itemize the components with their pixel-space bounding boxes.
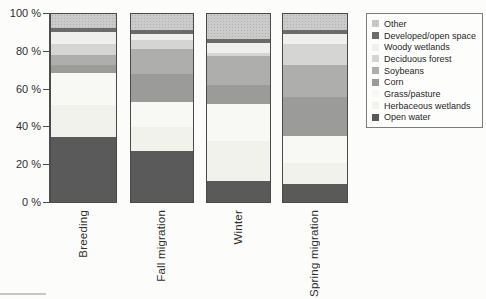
- legend-item: Herbaceous wetlands: [372, 100, 482, 112]
- x-axis-label: Winter: [231, 210, 245, 244]
- legend-item: Corn: [372, 76, 482, 88]
- y-tick: [43, 13, 49, 14]
- legend-item: Deciduous forest: [372, 53, 482, 65]
- bar-segment: [51, 44, 116, 55]
- y-tick: [43, 51, 49, 52]
- bar-segment: [51, 65, 116, 73]
- bar-segment: [131, 14, 193, 30]
- bar-segment: [283, 97, 347, 136]
- y-tick: [43, 164, 49, 165]
- bar-segment: [51, 14, 116, 28]
- bar-segment: [131, 102, 193, 126]
- y-tick-label: 0 %: [0, 196, 41, 208]
- bar-segment: [283, 136, 347, 163]
- bar: [130, 13, 194, 203]
- legend-item: Developed/open space: [372, 30, 482, 42]
- legend-swatch: [372, 20, 379, 27]
- legend-item: Grass/pasture: [372, 88, 482, 100]
- bar-segment: [207, 14, 270, 39]
- bar-segment: [283, 65, 347, 97]
- bar-segment: [51, 137, 116, 202]
- bar-segment: [283, 34, 347, 44]
- bar-segment: [131, 49, 193, 74]
- legend-label: Herbaceous wetlands: [384, 101, 471, 111]
- bar-segment: [51, 105, 116, 137]
- bar-segment: [51, 55, 116, 64]
- legend-item: Open water: [372, 112, 482, 124]
- legend-swatch: [372, 32, 379, 39]
- bar-segment: [207, 181, 270, 202]
- y-tick-label: 20 %: [0, 158, 41, 170]
- bar-segment: [51, 73, 116, 105]
- bar: [206, 13, 271, 203]
- y-tick: [43, 202, 49, 203]
- legend-label: Soybeans: [384, 66, 424, 76]
- legend-label: Open water: [384, 112, 431, 122]
- y-tick: [43, 126, 49, 127]
- x-axis-label: Spring migration: [307, 210, 321, 297]
- bar-segment: [207, 141, 270, 181]
- legend-item: Soybeans: [372, 65, 482, 77]
- bar-segment: [131, 40, 193, 48]
- y-tick: [43, 89, 49, 90]
- legend: OtherDeveloped/open spaceWoody wetlandsD…: [366, 13, 483, 128]
- legend-label: Grass/pasture: [384, 89, 441, 99]
- legend-swatch: [372, 102, 379, 109]
- legend-swatch: [372, 90, 379, 97]
- bar-segment: [283, 184, 347, 202]
- legend-label: Deciduous forest: [384, 54, 452, 64]
- bar-segment: [207, 43, 270, 52]
- bar-segment: [131, 74, 193, 102]
- legend-item: Woody wetlands: [372, 41, 482, 53]
- legend-swatch: [372, 55, 379, 62]
- bar-segment: [131, 151, 193, 202]
- bar: [282, 13, 348, 203]
- legend-swatch: [372, 79, 379, 86]
- legend-label: Developed/open space: [384, 31, 476, 41]
- figure: 100 %80 %60 %40 %20 %0 % BreedingFall mi…: [0, 0, 486, 299]
- bar-segment: [283, 44, 347, 65]
- y-tick-label: 60 %: [0, 83, 41, 95]
- legend-list: OtherDeveloped/open spaceWoody wetlandsD…: [372, 18, 482, 123]
- legend-label: Other: [384, 19, 407, 29]
- x-axis-label: Fall migration: [154, 210, 168, 282]
- bar-segment: [283, 163, 347, 184]
- legend-item: Other: [372, 18, 482, 30]
- bar-segment: [283, 14, 347, 30]
- bar-segment: [51, 32, 116, 44]
- bar-segment: [207, 104, 270, 141]
- legend-label: Woody wetlands: [384, 42, 450, 52]
- legend-swatch: [372, 44, 379, 51]
- y-tick-label: 100 %: [0, 7, 41, 19]
- legend-label: Corn: [384, 77, 404, 87]
- y-tick-label: 40 %: [0, 120, 41, 132]
- bar-segment: [131, 127, 193, 151]
- bar-segment: [207, 85, 270, 105]
- bar: [50, 13, 117, 203]
- scan-artifact-line: [0, 293, 46, 295]
- bar-segment: [131, 34, 193, 41]
- y-tick-label: 80 %: [0, 45, 41, 57]
- bar-segment: [207, 56, 270, 84]
- x-axis-label: Breeding: [76, 210, 90, 258]
- legend-swatch: [372, 67, 379, 74]
- legend-swatch: [372, 114, 379, 121]
